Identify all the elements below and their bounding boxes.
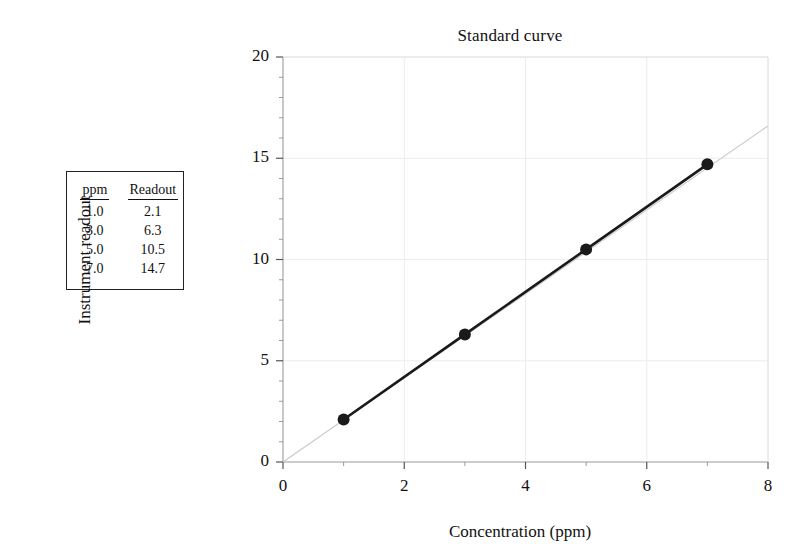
- x-tick-label: 8: [751, 476, 785, 496]
- y-tick-label: 5: [235, 350, 269, 370]
- data-point-marker: [580, 243, 592, 255]
- y-axis-title: Instrument readout: [75, 120, 95, 400]
- gridlines: [283, 57, 768, 462]
- data-point-marker: [459, 328, 471, 340]
- standard-curve-chart: Standard curve Instrument readout Concen…: [0, 0, 808, 558]
- plot-canvas: [0, 0, 808, 558]
- x-tick-label: 2: [387, 476, 421, 496]
- data-point-marker: [701, 158, 713, 170]
- x-tick-label: 0: [266, 476, 300, 496]
- x-tick-label: 4: [509, 476, 543, 496]
- axis-ticks: [276, 57, 768, 469]
- y-tick-label: 15: [235, 147, 269, 167]
- y-tick-label: 0: [235, 451, 269, 471]
- y-tick-label: 20: [235, 46, 269, 66]
- y-tick-label: 10: [235, 249, 269, 269]
- data-point-marker: [338, 413, 350, 425]
- x-axis-title: Concentration (ppm): [380, 522, 660, 542]
- chart-title: Standard curve: [380, 26, 640, 46]
- x-tick-label: 6: [630, 476, 664, 496]
